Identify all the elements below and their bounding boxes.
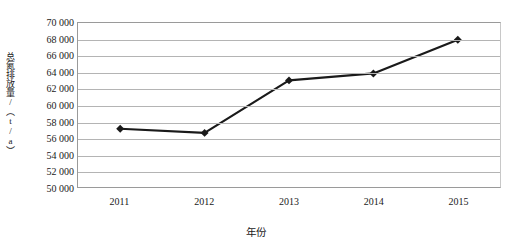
y-axis-tick-label: 58 000: [20, 116, 74, 127]
y-axis-title: 总氮排放量/（t/a）: [2, 38, 18, 168]
x-axis-tick-label: 2015: [449, 196, 469, 207]
gridline: [78, 139, 500, 140]
x-axis-title: 年份: [0, 224, 512, 239]
x-axis-tick-label: 2011: [110, 196, 130, 207]
y-axis-tick-label: 70 000: [20, 17, 74, 28]
gridline: [78, 156, 500, 157]
y-axis-tick-label: 64 000: [20, 66, 74, 77]
gridline: [78, 123, 500, 124]
x-axis-tick-label: 2013: [279, 196, 299, 207]
x-axis-tick-label: 2012: [194, 196, 214, 207]
gridline: [78, 89, 500, 90]
gridline: [78, 40, 500, 41]
series-line: [120, 40, 458, 133]
y-axis-tick-label: 50 000: [20, 183, 74, 194]
y-axis-tick-label: 66 000: [20, 50, 74, 61]
data-series-layer: [78, 23, 500, 187]
y-axis-tick-label: 60 000: [20, 100, 74, 111]
plot-area: [77, 22, 501, 188]
y-axis-tick-label: 54 000: [20, 149, 74, 160]
x-axis-tick-label: 2014: [364, 196, 384, 207]
line-chart: 总氮排放量/（t/a） 70 00068 00066 00064 00062 0…: [0, 0, 512, 251]
gridline: [78, 56, 500, 57]
y-axis-tick-label: 52 000: [20, 166, 74, 177]
y-axis-tick-label: 56 000: [20, 133, 74, 144]
gridline: [78, 172, 500, 173]
y-axis-tick-label: 62 000: [20, 83, 74, 94]
y-axis-tick-label: 68 000: [20, 33, 74, 44]
gridline: [78, 73, 500, 74]
y-axis-tick-labels: 70 00068 00066 00064 00062 00060 00058 0…: [18, 0, 74, 251]
data-point-marker: [116, 125, 124, 133]
gridline: [78, 106, 500, 107]
